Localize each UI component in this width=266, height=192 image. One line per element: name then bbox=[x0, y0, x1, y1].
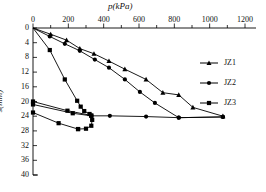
data-point-square bbox=[79, 105, 83, 109]
legend-label-JZ2: JZ2 bbox=[224, 78, 236, 87]
legend-item-JZ3[interactable] bbox=[200, 101, 218, 105]
y-tick-label-8: 8 bbox=[3, 52, 29, 61]
data-point-circle bbox=[207, 81, 211, 85]
data-point-square bbox=[75, 99, 79, 103]
data-point-square bbox=[82, 109, 86, 113]
legend-item-JZ1[interactable] bbox=[200, 60, 218, 65]
data-point-square bbox=[57, 121, 61, 125]
data-point-circle bbox=[123, 77, 127, 81]
x-tick-label-200: 200 bbox=[54, 15, 82, 24]
data-point-square bbox=[76, 127, 80, 131]
data-point-square bbox=[31, 102, 35, 106]
data-point-square bbox=[48, 48, 52, 52]
data-point-circle bbox=[138, 90, 142, 94]
y-tick-label-0: 0 bbox=[3, 23, 29, 32]
x-tick-label-1200: 1200 bbox=[231, 15, 259, 24]
data-point-circle bbox=[153, 101, 157, 105]
data-point-circle bbox=[78, 49, 82, 53]
data-point-square bbox=[31, 110, 35, 114]
y-tick-label-16: 16 bbox=[3, 82, 29, 91]
data-point-triangle bbox=[106, 58, 111, 63]
y-tick-label-24: 24 bbox=[3, 111, 29, 120]
y-tick-label-28: 28 bbox=[3, 126, 29, 135]
series-JZ2-plateau bbox=[89, 114, 225, 120]
x-tick-label-1000: 1000 bbox=[196, 15, 224, 24]
data-point-triangle bbox=[122, 67, 127, 72]
y-tick-label-36: 36 bbox=[3, 155, 29, 164]
y-tick-label-32: 32 bbox=[3, 141, 29, 150]
data-point-square bbox=[90, 118, 94, 122]
data-point-circle bbox=[63, 42, 67, 46]
y-tick-label-12: 12 bbox=[3, 67, 29, 76]
data-point-circle bbox=[221, 115, 225, 119]
legend-label-JZ3: JZ3 bbox=[224, 98, 236, 107]
data-point-square bbox=[207, 101, 211, 105]
plot-area bbox=[0, 0, 266, 192]
x-tick-label-800: 800 bbox=[160, 15, 188, 24]
y-tick-label-40: 40 bbox=[3, 170, 29, 179]
data-point-circle bbox=[107, 66, 111, 70]
data-point-square bbox=[84, 127, 88, 131]
data-point-circle bbox=[177, 116, 181, 120]
load-settlement-chart: p(kPa) s(mm) 020040060080010001200048121… bbox=[0, 0, 266, 192]
data-point-circle bbox=[89, 114, 93, 118]
legend-label-JZ1: JZ1 bbox=[224, 58, 236, 67]
data-point-square bbox=[89, 124, 93, 128]
x-tick-label-600: 600 bbox=[125, 15, 153, 24]
data-point-square bbox=[63, 77, 67, 81]
data-point-circle bbox=[108, 114, 112, 118]
data-point-circle bbox=[144, 114, 148, 118]
y-tick-label-20: 20 bbox=[3, 97, 29, 106]
data-point-circle bbox=[48, 34, 52, 38]
x-tick-label-400: 400 bbox=[90, 15, 118, 24]
data-point-triangle bbox=[144, 77, 149, 82]
y-tick-label-4: 4 bbox=[3, 38, 29, 47]
legend-item-JZ2[interactable] bbox=[200, 81, 218, 85]
data-point-square bbox=[71, 111, 75, 115]
data-point-circle bbox=[93, 58, 97, 62]
